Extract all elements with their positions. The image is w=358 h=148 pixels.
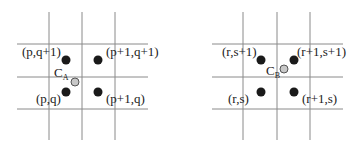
grid-point (257, 56, 266, 65)
point-label: (p+1,q) (106, 91, 145, 106)
grid-point (290, 56, 299, 65)
panel-a: (p,q+1)(p+1,q+1)(p,q)(p+1,q)CA (17, 12, 159, 140)
grid-point (62, 88, 71, 97)
grid-point (94, 56, 103, 65)
center-label: CB (266, 63, 280, 80)
point-label: (r,s) (228, 91, 249, 106)
point-label: (r+1,s) (302, 91, 337, 106)
center-point (71, 78, 79, 86)
point-label: (r,s+1) (222, 44, 257, 59)
grid-point (62, 56, 71, 65)
point-label: (r+1,s+1) (297, 44, 346, 59)
panel-b: (r,s+1)(r+1,s+1)(r,s)(r+1,s)CB (212, 12, 346, 140)
point-label: (p+1,q+1) (106, 44, 159, 59)
interpolation-diagram: (p,q+1)(p+1,q+1)(p,q)(p+1,q)CA(r,s+1)(r+… (0, 0, 358, 148)
grid-point (94, 88, 103, 97)
center-label: CA (54, 65, 69, 82)
grid (17, 12, 148, 140)
point-label: (p,q) (36, 91, 61, 106)
grid-point (290, 88, 299, 97)
center-point (280, 65, 288, 73)
grid-point (257, 88, 266, 97)
point-label: (p,q+1) (22, 44, 61, 59)
